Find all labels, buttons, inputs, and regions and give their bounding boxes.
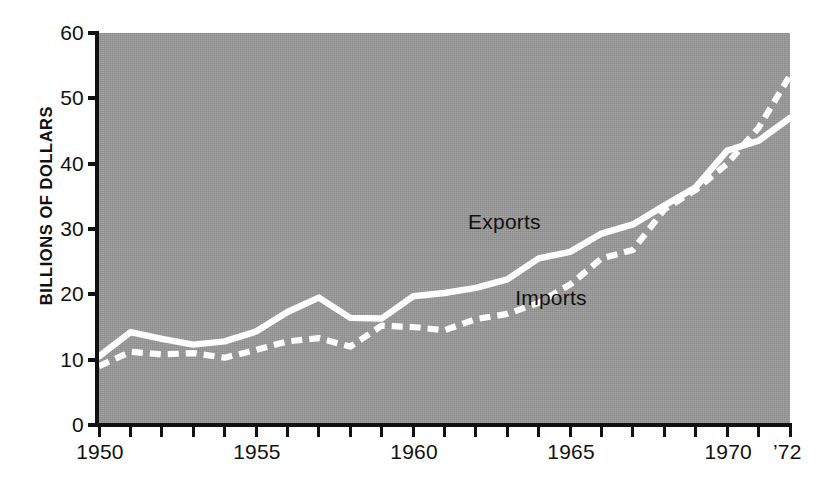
x-tick-1965 [569,425,572,437]
x-tick-1967 [631,425,634,437]
x-tick-1962 [474,425,477,437]
x-tick-label-1972: ’72 [773,441,802,463]
exports-line [99,118,790,356]
y-tick-label-60: 60 [34,22,84,43]
y-tick-label-10: 10 [34,349,84,370]
y-tick-label-text: 0 [44,414,84,435]
chart-figure: BILLIONS OF DOLLARS 0102030405060 Export… [0,0,824,481]
imports-line [99,75,790,366]
y-tick-label-text: 40 [44,153,84,174]
series-label-exports: Exports [468,211,541,232]
y-tick-label-20: 20 [34,283,84,304]
x-tick-1956 [286,425,289,437]
series-lines [99,33,790,425]
x-tick-1955 [255,425,258,437]
x-tick-label-1965: 1965 [547,441,595,463]
y-tick-label-30: 30 [34,218,84,239]
x-tick-1969 [694,425,697,437]
x-tick-1957 [317,425,320,437]
x-tick-label-1950: 1950 [76,441,124,463]
x-tick-1972 [789,425,792,437]
x-tick-label-1960: 1960 [390,441,438,463]
x-tick-1971 [757,425,760,437]
x-tick-1960 [412,425,415,437]
x-tick-1951 [129,425,132,437]
y-tick-label-0: 0 [34,414,84,435]
x-tick-1953 [192,425,195,437]
x-tick-1964 [537,425,540,437]
plot-area: ExportsImports [99,33,790,425]
y-tick-label-text: 10 [44,349,84,370]
x-tick-1952 [160,425,163,437]
y-axis-line [95,31,99,427]
x-tick-1970 [726,425,729,437]
x-tick-label-1970: 1970 [704,441,752,463]
x-tick-1968 [663,425,666,437]
x-tick-1966 [600,425,603,437]
x-tick-1950 [98,425,101,437]
x-tick-1963 [506,425,509,437]
x-tick-label-1955: 1955 [233,441,281,463]
x-tick-1958 [349,425,352,437]
series-label-imports: Imports [515,287,586,308]
x-tick-1959 [380,425,383,437]
x-tick-1954 [223,425,226,437]
y-axis-title-holder: BILLIONS OF DOLLARS [0,0,40,481]
y-tick-label-40: 40 [34,153,84,174]
x-tick-1961 [443,425,446,437]
y-tick-label-text: 30 [44,218,84,239]
y-tick-label-50: 50 [34,87,84,108]
y-tick-label-text: 60 [44,22,84,43]
y-tick-label-text: 20 [44,283,84,304]
y-tick-label-text: 50 [44,87,84,108]
